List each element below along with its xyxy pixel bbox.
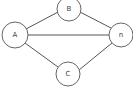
edge-c-n (79, 43, 112, 70)
edge-a-c (25, 43, 58, 67)
node-b-label: B (67, 5, 72, 13)
node-c: C (56, 62, 80, 86)
node-n-label: n (119, 31, 123, 39)
node-a: A (2, 22, 28, 48)
node-n: n (109, 23, 133, 47)
edge-a-b (26, 12, 58, 29)
node-a-label: A (13, 31, 18, 39)
graph-diagram: A B C n (0, 0, 133, 88)
node-b: B (57, 0, 81, 21)
node-c-label: C (66, 70, 71, 78)
edge-b-n (80, 12, 111, 28)
